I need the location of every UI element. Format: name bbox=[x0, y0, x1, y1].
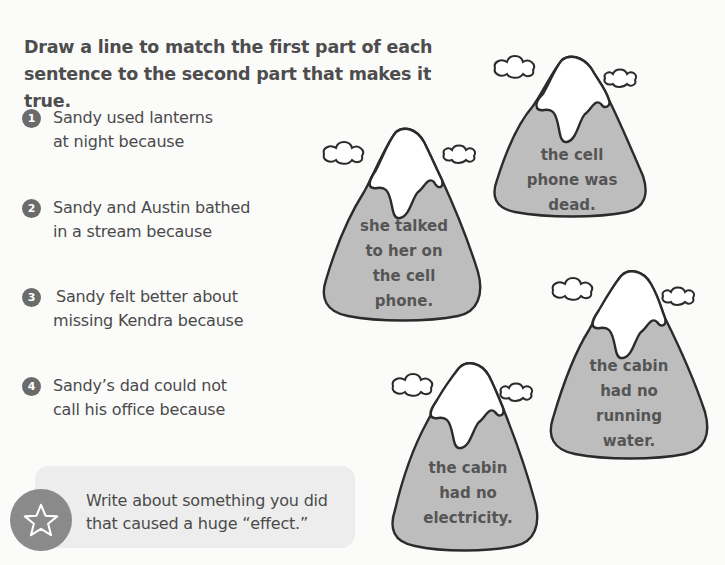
cause-text-line: Sandy felt better about bbox=[53, 285, 243, 309]
effect-line: dead. bbox=[507, 193, 637, 218]
effect-text-3: the cabin had no running water. bbox=[563, 354, 695, 454]
cause-text-3: Sandy felt better about missing Kendra b… bbox=[53, 285, 243, 333]
effect-line: had no bbox=[563, 379, 695, 404]
cause-text-line: Sandy used lanterns bbox=[53, 106, 213, 130]
effect-line: she talked bbox=[338, 214, 470, 239]
effect-mountain-2[interactable]: she talked to her on the cell phone. bbox=[318, 124, 490, 324]
effect-line: phone. bbox=[338, 289, 470, 314]
prompt-line: that caused a huge “effect.” bbox=[86, 512, 356, 535]
cause-item-2[interactable]: 2 Sandy and Austin bathed in a stream be… bbox=[22, 196, 250, 244]
effect-line: electricity. bbox=[399, 506, 537, 531]
cause-item-3[interactable]: 3 Sandy felt better about missing Kendra… bbox=[22, 285, 243, 333]
prompt-line: Write about something you did bbox=[86, 489, 356, 512]
effect-mountain-1[interactable]: the cell phone was dead. bbox=[487, 48, 657, 218]
star-icon bbox=[22, 501, 60, 539]
instructions: Draw a line to match the first part of e… bbox=[24, 34, 464, 115]
number-badge-4: 4 bbox=[22, 377, 41, 396]
star-badge bbox=[10, 489, 72, 551]
effect-line: the cell bbox=[338, 264, 470, 289]
effect-line: had no bbox=[399, 481, 537, 506]
effect-line: phone was bbox=[507, 168, 637, 193]
cause-text-line: Sandy’s dad could not bbox=[53, 374, 227, 398]
number-badge-1: 1 bbox=[22, 109, 41, 128]
cause-item-1[interactable]: 1 Sandy used lanterns at night because bbox=[22, 106, 213, 154]
cause-text-2: Sandy and Austin bathed in a stream beca… bbox=[53, 196, 250, 244]
cause-text-4: Sandy’s dad could not call his office be… bbox=[53, 374, 227, 422]
instructions-line-1: Draw a line to match the first part of e… bbox=[24, 34, 464, 61]
effect-line: the cabin bbox=[399, 456, 537, 481]
cause-text-line: at night because bbox=[53, 130, 213, 154]
effect-mountain-3[interactable]: the cabin had no running water. bbox=[545, 266, 725, 462]
effect-line: the cabin bbox=[563, 354, 695, 379]
effect-text-1: the cell phone was dead. bbox=[507, 143, 637, 218]
effect-line: running bbox=[563, 404, 695, 429]
writing-prompt-text: Write about something you did that cause… bbox=[86, 489, 356, 535]
cause-item-4[interactable]: 4 Sandy’s dad could not call his office … bbox=[22, 374, 227, 422]
effect-line: water. bbox=[563, 429, 695, 454]
effect-line: to her on bbox=[338, 239, 470, 264]
number-badge-2: 2 bbox=[22, 199, 41, 218]
effect-line: the cell bbox=[507, 143, 637, 168]
number-badge-3: 3 bbox=[22, 288, 41, 307]
cause-text-line: missing Kendra because bbox=[53, 309, 243, 333]
effect-mountain-4[interactable]: the cabin had no electricity. bbox=[385, 358, 550, 554]
cause-text-1: Sandy used lanterns at night because bbox=[53, 106, 213, 154]
effect-text-2: she talked to her on the cell phone. bbox=[338, 214, 470, 314]
cause-text-line: call his office because bbox=[53, 398, 227, 422]
effect-text-4: the cabin had no electricity. bbox=[399, 456, 537, 531]
cause-text-line: in a stream because bbox=[53, 220, 250, 244]
cause-text-line: Sandy and Austin bathed bbox=[53, 196, 250, 220]
